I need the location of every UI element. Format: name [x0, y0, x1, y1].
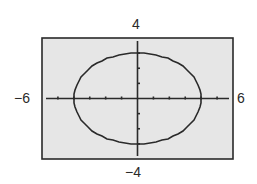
- ymin-label: −4: [125, 165, 141, 179]
- chart-canvas: [0, 0, 257, 184]
- xmax-label: 6: [237, 91, 245, 105]
- xmin-label: −6: [14, 91, 30, 105]
- ymax-label: 4: [132, 17, 140, 31]
